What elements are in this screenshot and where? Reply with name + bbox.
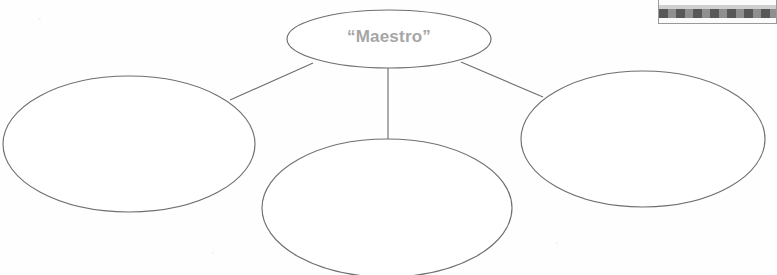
center-bubble[interactable] — [287, 10, 491, 68]
left-bubble[interactable] — [3, 76, 255, 212]
right-bubble[interactable] — [521, 71, 765, 207]
bottom-bubble[interactable] — [262, 139, 512, 275]
worksheet-page: “Maestro” or actions. — [0, 0, 777, 275]
connector-center-to-left — [230, 63, 313, 100]
bubble-group — [3, 10, 765, 275]
callout-textbox: or actions. — [658, 0, 777, 24]
concept-map-diagram — [0, 0, 777, 275]
callout-bar — [659, 9, 777, 18]
connector-center-to-right — [461, 62, 543, 97]
connector-group — [230, 62, 543, 140]
